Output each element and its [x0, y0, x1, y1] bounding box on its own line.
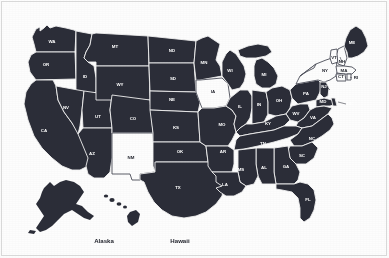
- inset-labels: AlaskaHawaii: [94, 237, 190, 244]
- state-label-SC: SC: [299, 153, 306, 158]
- state-label-IL: IL: [238, 104, 242, 109]
- state-label-KS: KS: [173, 125, 179, 130]
- state-label-LA: LA: [222, 182, 229, 187]
- us-map-screenshot: WAORIDMTNDSDMNWIMIWYNVUTCONEIAILINOHPANY…: [0, 0, 389, 258]
- state-label-ME: ME: [349, 40, 356, 45]
- state-label-UT: UT: [95, 114, 101, 119]
- state-shape-OR[interactable]: [28, 52, 76, 80]
- state-label-NJ: NJ: [321, 84, 327, 89]
- state-label-NV: NV: [63, 105, 69, 110]
- state-label-GA: GA: [283, 164, 290, 169]
- state-label-WI: WI: [227, 68, 232, 73]
- state-label-PA: PA: [303, 91, 310, 96]
- state-label-MT: MT: [112, 44, 119, 49]
- state-label-OK: OK: [177, 149, 184, 154]
- state-shapes[interactable]: [24, 25, 368, 234]
- state-shape-ME[interactable]: [344, 26, 368, 58]
- state-label-NM: NM: [128, 155, 135, 160]
- state-label-OH: OH: [276, 98, 283, 103]
- state-label-CT: CT: [338, 74, 344, 79]
- state-label-AR: AR: [220, 149, 227, 154]
- state-shape-MO[interactable]: [198, 106, 236, 146]
- state-label-KY: KY: [265, 121, 271, 126]
- inset-label-alaska: Alaska: [94, 237, 114, 244]
- state-label-RI: RI: [354, 75, 358, 80]
- state-shape-MT[interactable]: [84, 33, 149, 66]
- state-label-TN: TN: [260, 141, 266, 146]
- us-map-svg[interactable]: WAORIDMTNDSDMNWIMIWYNVUTCONEIAILINOHPANY…: [0, 0, 389, 258]
- alaska-shape[interactable]: [36, 180, 94, 232]
- state-label-MD: MD: [320, 99, 327, 104]
- state-label-VA: VA: [310, 115, 317, 120]
- state-label-CA: CA: [41, 128, 48, 133]
- state-shape-MI-UP[interactable]: [238, 44, 272, 58]
- state-label-OR: OR: [43, 62, 50, 67]
- state-label-NC: NC: [309, 136, 316, 141]
- state-label-MO: MO: [218, 122, 226, 127]
- state-label-MI: MI: [262, 72, 267, 77]
- state-label-CO: CO: [130, 116, 137, 121]
- state-label-TX: TX: [175, 185, 181, 190]
- alaska-aleutians[interactable]: [28, 230, 36, 234]
- state-label-FL: FL: [305, 197, 311, 202]
- state-label-IN: IN: [257, 102, 261, 107]
- state-label-SD: SD: [170, 76, 176, 81]
- state-label-MA: MA: [341, 68, 349, 73]
- state-label-AZ: AZ: [89, 151, 95, 156]
- state-label-WV: WV: [292, 111, 299, 116]
- state-shape-MN[interactable]: [194, 36, 222, 80]
- state-label-AL: AL: [261, 165, 267, 170]
- state-label-WY: WY: [116, 82, 123, 87]
- map-canvas[interactable]: WAORIDMTNDSDMNWIMIWYNVUTCONEIAILINOHPANY…: [0, 0, 389, 258]
- state-shape-CO[interactable]: [110, 95, 153, 133]
- state-label-MS: MS: [238, 167, 245, 172]
- state-label-ND: ND: [169, 48, 175, 53]
- state-label-NY: NY: [322, 68, 328, 73]
- state-label-MN: MN: [201, 60, 208, 65]
- state-label-ID: ID: [83, 74, 87, 79]
- inset-label-hawaii: Hawaii: [170, 237, 190, 244]
- state-label-WA: WA: [48, 39, 56, 44]
- state-label-VT: VT: [331, 55, 337, 60]
- state-label-DE: DE: [347, 101, 353, 106]
- hawaii-shape[interactable]: [104, 194, 140, 226]
- state-label-NH: NH: [339, 59, 345, 64]
- state-label-NE: NE: [169, 97, 175, 102]
